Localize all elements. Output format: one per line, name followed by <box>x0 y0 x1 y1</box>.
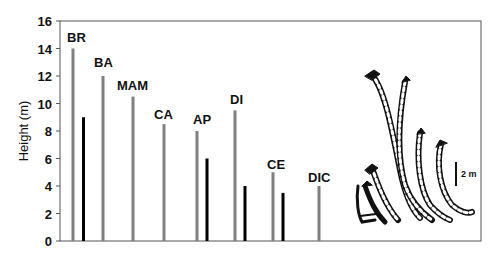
bar-DI-black <box>244 186 247 241</box>
y-tick-14: 14 <box>38 42 53 57</box>
bar-BA-gray <box>102 76 105 241</box>
label-BR: BR <box>67 30 86 45</box>
y-tick-2: 2 <box>45 207 52 222</box>
bars <box>72 49 321 242</box>
y-tick-0: 0 <box>45 234 52 249</box>
y-tick-8: 8 <box>45 124 52 139</box>
y-tick-10: 10 <box>38 97 52 112</box>
bar-AP-gray <box>196 131 199 241</box>
label-CA: CA <box>154 107 173 122</box>
label-DI: DI <box>230 92 243 107</box>
bar-DIC-gray <box>318 186 321 241</box>
sauropod-necks-illustration <box>357 70 472 222</box>
chart: 0 2 4 6 8 10 12 14 16 Height (m) BR <box>0 0 498 259</box>
bar-MAM-gray <box>132 97 135 241</box>
bar-CA-gray <box>163 124 166 241</box>
y-tick-16: 16 <box>38 14 52 29</box>
bar-CE-gray <box>272 172 275 241</box>
label-CE: CE <box>267 157 285 172</box>
bar-BR-gray <box>72 49 75 242</box>
y-axis-label: Height (m) <box>16 101 31 162</box>
bar-AP-black <box>206 159 209 242</box>
label-BA: BA <box>94 55 113 70</box>
y-tick-4: 4 <box>45 179 53 194</box>
y-axis: 0 2 4 6 8 10 12 14 16 Height (m) <box>16 14 60 249</box>
y-tick-6: 6 <box>45 152 52 167</box>
label-AP: AP <box>193 112 211 127</box>
scale-bar: 2 m <box>456 162 477 186</box>
bar-labels: BR BA MAM CA AP DI CE DIC <box>67 30 331 185</box>
bar-DI-gray <box>234 110 237 241</box>
bar-CE-black <box>282 193 285 241</box>
y-tick-12: 12 <box>38 69 52 84</box>
bar-BR-black <box>82 117 85 241</box>
label-DIC: DIC <box>308 170 331 185</box>
scale-bar-label: 2 m <box>461 169 477 179</box>
label-MAM: MAM <box>117 78 148 93</box>
